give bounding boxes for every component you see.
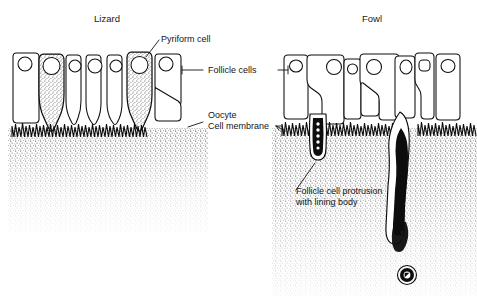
nucleus [290, 60, 303, 72]
figure-canvas: Lizard Fowl Pyriform cell Follicle cells… [0, 0, 477, 300]
nucleus [367, 60, 382, 75]
nucleus [419, 60, 430, 71]
nucleus [400, 60, 412, 74]
nucleus [441, 60, 455, 73]
lizard-epithelium [12, 52, 181, 137]
nucleus [43, 58, 60, 75]
panel-title-fowl: Fowl [362, 13, 382, 24]
nucleus [327, 60, 342, 75]
nucleus [69, 60, 81, 72]
nucleus [131, 57, 148, 74]
label-cell-membrane: Cell membrane [208, 121, 269, 131]
oocyte-cytoplasm-fowl [272, 128, 477, 296]
oocyte-cytoplasm-lizard [8, 128, 208, 233]
follicle-cell-protrusion-short [310, 114, 327, 160]
label-follicle-cell-protrusion: Follicle cell protrusion [296, 186, 383, 196]
free-lining-body [398, 266, 417, 285]
nucleus [110, 60, 122, 72]
label-with-lining-body: with lining body [295, 197, 358, 207]
label-oocyte: Oocyte [208, 110, 237, 120]
label-follicle-cells: Follicle cells [208, 65, 257, 75]
nucleus [88, 59, 102, 73]
label-pyriform-cell: Pyriform cell [161, 34, 211, 44]
leader-oocyte-left [188, 122, 203, 127]
nucleus [18, 57, 32, 71]
follicle-diagram: Lizard Fowl Pyriform cell Follicle cells… [0, 0, 477, 300]
panel-title-lizard: Lizard [94, 13, 120, 24]
nucleus [159, 57, 173, 71]
nucleus [348, 64, 358, 74]
